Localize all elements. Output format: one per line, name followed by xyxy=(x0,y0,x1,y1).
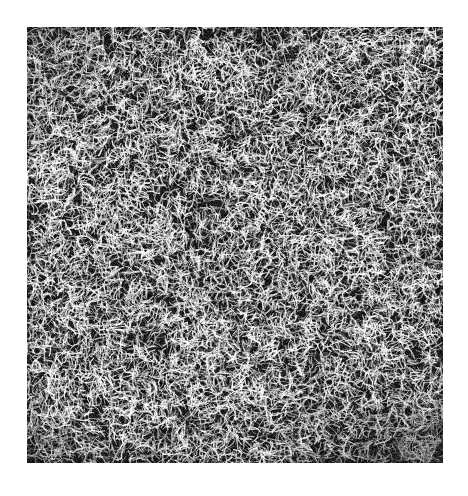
filament-noise-texture xyxy=(27,27,443,463)
texture-image xyxy=(27,27,443,463)
